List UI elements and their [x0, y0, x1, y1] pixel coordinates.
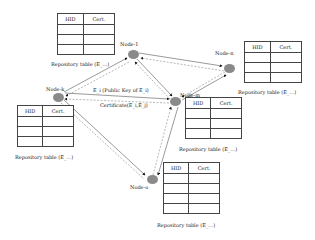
- edge-m-1: [135, 62, 170, 99]
- node-1-label: Node-1: [120, 41, 138, 47]
- table-1-caption: Repository table (E_...): [51, 61, 109, 67]
- node-o[interactable]: [147, 175, 158, 184]
- table-k-caption: Repository table (E_...): [15, 154, 73, 160]
- repository-table-n: HIDCert.: [244, 41, 302, 83]
- header-cert: Cert.: [211, 98, 242, 109]
- table-m-caption: Repository table (E_...): [179, 146, 237, 152]
- node-m[interactable]: [170, 97, 181, 106]
- repository-table-1: HIDCert.: [57, 13, 115, 55]
- node-n[interactable]: [224, 64, 235, 73]
- repository-table-k: HIDCert.: [17, 105, 74, 147]
- node-n-label: Node-n: [215, 50, 233, 56]
- header-cert: Cert.: [83, 14, 114, 25]
- repository-table-m: HIDCert.: [185, 97, 242, 139]
- header-hid: HID: [164, 163, 189, 174]
- repository-table-o: HIDCert.: [163, 162, 220, 214]
- node-o-label: Node-o: [130, 184, 148, 190]
- header-cert: Cert.: [43, 106, 74, 117]
- header-hid: HID: [186, 98, 211, 109]
- node-1[interactable]: [128, 50, 139, 59]
- edge-label-public-key: E_i (Public Key of E_i): [93, 87, 149, 93]
- edge-k-m: [65, 93, 169, 99]
- table-o-caption: Repository table (E_...): [157, 222, 215, 228]
- edge-1-n: [139, 53, 222, 66]
- node-k-label: Node-k: [46, 86, 64, 92]
- diagram-canvas: E_i (Public Key of E_i) Certificate(E_i,…: [0, 0, 315, 240]
- header-hid: HID: [58, 14, 84, 25]
- table-n-caption: Repository table (E_...): [238, 89, 296, 95]
- edge-label-certificate: Certificate(E_i,E_j): [100, 102, 148, 108]
- node-k[interactable]: [53, 93, 64, 102]
- edge-k-o: [64, 100, 145, 175]
- header-cert: Cert.: [189, 163, 220, 174]
- header-hid: HID: [245, 42, 271, 53]
- header-cert: Cert.: [270, 42, 301, 53]
- header-hid: HID: [18, 106, 43, 117]
